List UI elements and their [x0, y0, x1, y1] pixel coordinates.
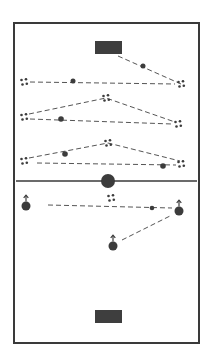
path-r2-upper [29, 98, 175, 122]
balls [58, 64, 166, 211]
player-center-icon [109, 235, 118, 250]
player-right-icon [175, 200, 184, 215]
path-r1-line [30, 82, 175, 84]
player-left-icon [22, 195, 31, 210]
cone-bottom-mid-icon [107, 194, 115, 202]
center-ball-icon [101, 174, 115, 188]
cone-r1-left-icon [20, 78, 28, 86]
ball-r3-lower-icon [160, 163, 166, 169]
ball-r3-upper-icon [62, 151, 68, 157]
players [22, 195, 184, 250]
ball-r1-line-icon [71, 79, 76, 84]
drill-diagram [0, 0, 212, 363]
bottom-goal [95, 310, 122, 323]
cone-r1-right-icon [177, 80, 185, 88]
ball-r2-line-icon [58, 116, 64, 122]
cone-r3-left-icon [20, 157, 28, 165]
path-r2-lower [30, 119, 172, 124]
path-goal-to-r1-right [118, 56, 181, 84]
ball-bottom-line-icon [150, 206, 155, 211]
cone-r3-right-icon [177, 160, 185, 168]
path-r3-upper [29, 143, 180, 161]
path-r3-lower [37, 163, 176, 165]
cone-r2-mid-icon [102, 94, 110, 102]
dashed-movement-paths [29, 56, 181, 240]
ball-r1-diag-icon [141, 64, 146, 69]
cone-r2-right-icon [174, 120, 182, 128]
cone-r2-left-icon [20, 113, 28, 121]
drill-canvas [0, 0, 212, 363]
path-bottom-diag [122, 216, 170, 240]
top-goal [95, 41, 122, 54]
